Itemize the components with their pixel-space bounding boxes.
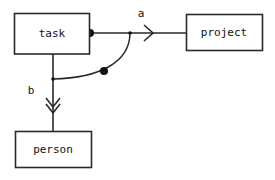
diagram-svg: a b task project person (0, 0, 275, 180)
entity-label-person: person (33, 143, 73, 156)
curve-bottom-junction-dot-icon (51, 77, 55, 81)
edge-a-label: a (138, 7, 145, 20)
edge-curve-midpoint-dot-icon (100, 67, 108, 75)
entity-label-task: task (39, 27, 66, 40)
entity-label-project: project (201, 26, 247, 39)
edge-b-label: b (28, 84, 35, 97)
diagram-canvas: a b task project person (0, 0, 275, 180)
curve-top-junction-dot-icon (128, 31, 132, 35)
